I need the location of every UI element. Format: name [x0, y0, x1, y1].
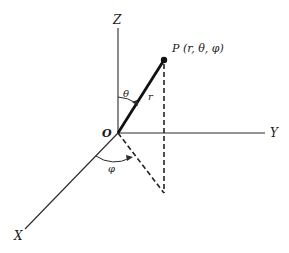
x-axis-label: X — [13, 229, 23, 243]
y-axis-label: Y — [270, 126, 279, 140]
phi-arc — [96, 156, 130, 162]
theta-label: θ — [123, 88, 129, 99]
z-axis-label: Z — [112, 13, 122, 27]
radius-label: r — [148, 91, 154, 102]
point-p-label: P (r, θ, φ) — [171, 42, 224, 55]
point-p-dot — [161, 57, 167, 63]
x-axis — [25, 133, 118, 229]
origin-label: O — [102, 127, 112, 140]
planar-projection-line — [118, 133, 164, 193]
spherical-coordinates-diagram: Z Y X O r P (r, θ, φ) θ φ — [0, 0, 289, 253]
phi-label: φ — [108, 163, 115, 174]
phi-arrow-icon — [126, 155, 133, 161]
